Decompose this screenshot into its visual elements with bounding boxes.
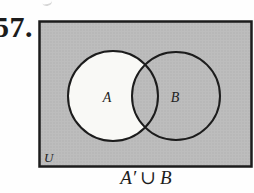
caption-set-b: B xyxy=(160,167,172,188)
venn-diagram: A B U xyxy=(38,20,254,170)
problem-number: 57. xyxy=(0,12,33,42)
print-artifact xyxy=(41,0,53,7)
diagram-caption: A′∪B xyxy=(38,165,254,191)
caption-set-a-complement: A′ xyxy=(120,167,136,188)
union-symbol-icon: ∪ xyxy=(140,167,156,188)
universal-set-label: U xyxy=(44,150,55,165)
set-b-label: B xyxy=(171,90,180,105)
set-a-label: A xyxy=(102,90,112,105)
